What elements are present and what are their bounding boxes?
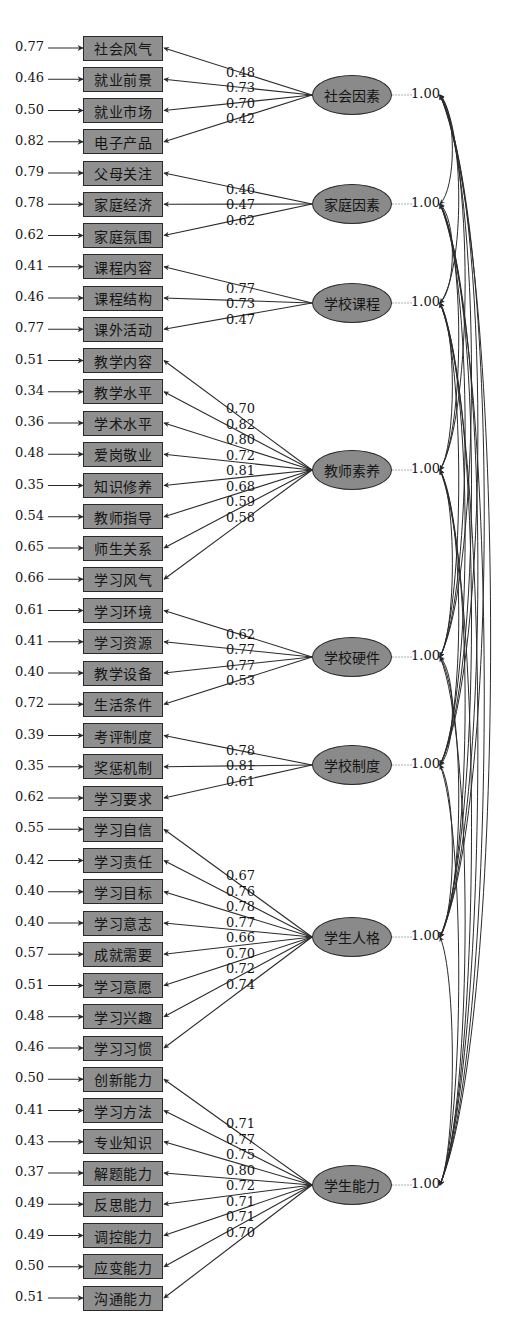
factor-loading-label: 0.77 bbox=[226, 282, 255, 295]
path-diagram-canvas bbox=[0, 0, 523, 1333]
error-variance-label: 0.72 bbox=[8, 695, 44, 710]
factor-loading-label: 0.72 bbox=[226, 449, 255, 462]
factor-loading-label: 0.70 bbox=[226, 1226, 255, 1239]
factor-loading-label: 0.73 bbox=[226, 81, 255, 94]
factor-loading-label: 0.47 bbox=[226, 198, 255, 211]
error-variance-label: 0.55 bbox=[8, 820, 44, 835]
error-variance-label: 0.62 bbox=[8, 227, 44, 242]
factor-loading-label: 0.71 bbox=[226, 1117, 255, 1130]
error-variance-label: 0.36 bbox=[8, 414, 44, 429]
factor-loading-label: 0.77 bbox=[226, 1133, 255, 1146]
latent-factor-ellipse: 学校课程 bbox=[312, 283, 392, 323]
error-variance-label: 0.34 bbox=[8, 383, 44, 398]
factor-loading-label: 0.59 bbox=[226, 495, 255, 508]
factor-loading-label: 0.66 bbox=[226, 931, 255, 944]
observed-variable-box: 教学水平 bbox=[83, 379, 163, 404]
factor-variance-label: 1.00 bbox=[411, 756, 440, 771]
error-variance-label: 0.50 bbox=[8, 1070, 44, 1085]
observed-variable-box: 学习环境 bbox=[83, 598, 163, 623]
observed-variable-box: 沟通能力 bbox=[83, 1286, 163, 1311]
observed-variable-box: 知识修养 bbox=[83, 473, 163, 498]
latent-factor-ellipse: 教师素养 bbox=[312, 450, 392, 490]
error-variance-label: 0.40 bbox=[8, 914, 44, 929]
error-variance-label: 0.42 bbox=[8, 852, 44, 867]
factor-variance-label: 1.00 bbox=[411, 86, 440, 101]
error-variance-label: 0.49 bbox=[8, 1195, 44, 1210]
factor-loading-label: 0.78 bbox=[226, 900, 255, 913]
factor-loading-label: 0.80 bbox=[226, 1164, 255, 1177]
error-variance-label: 0.35 bbox=[8, 758, 44, 773]
observed-variable-box: 学习兴趣 bbox=[83, 1004, 163, 1029]
observed-variable-box: 学习资源 bbox=[83, 629, 163, 654]
factor-variance-label: 1.00 bbox=[411, 648, 440, 663]
error-variance-label: 0.62 bbox=[8, 789, 44, 804]
error-variance-label: 0.50 bbox=[8, 1258, 44, 1273]
observed-variable-box: 家庭经济 bbox=[83, 192, 163, 217]
observed-variable-box: 家庭氛围 bbox=[83, 223, 163, 248]
latent-factor-ellipse: 家庭因素 bbox=[312, 184, 392, 224]
factor-loading-label: 0.73 bbox=[226, 297, 255, 310]
observed-variable-box: 父母关注 bbox=[83, 161, 163, 186]
error-variance-label: 0.41 bbox=[8, 1102, 44, 1117]
factor-loading-label: 0.61 bbox=[226, 775, 255, 788]
factor-loading-label: 0.82 bbox=[226, 418, 255, 431]
error-variance-label: 0.54 bbox=[8, 508, 44, 523]
error-variance-label: 0.65 bbox=[8, 539, 44, 554]
observed-variable-box: 学习目标 bbox=[83, 879, 163, 904]
error-variance-label: 0.40 bbox=[8, 883, 44, 898]
error-variance-label: 0.61 bbox=[8, 602, 44, 617]
observed-variable-box: 学习意志 bbox=[83, 911, 163, 936]
error-variance-label: 0.49 bbox=[8, 1227, 44, 1242]
error-variance-label: 0.39 bbox=[8, 727, 44, 742]
error-variance-label: 0.40 bbox=[8, 664, 44, 679]
observed-variable-box: 爱岗敬业 bbox=[83, 442, 163, 467]
error-variance-label: 0.46 bbox=[8, 70, 44, 85]
error-variance-label: 0.48 bbox=[8, 445, 44, 460]
factor-loading-label: 0.67 bbox=[226, 869, 255, 882]
factor-loading-label: 0.53 bbox=[226, 674, 255, 687]
error-variance-label: 0.41 bbox=[8, 258, 44, 273]
factor-loading-label: 0.74 bbox=[226, 978, 255, 991]
error-variance-label: 0.50 bbox=[8, 102, 44, 117]
latent-factor-ellipse: 学生能力 bbox=[312, 1165, 392, 1205]
factor-loading-label: 0.77 bbox=[226, 916, 255, 929]
error-variance-label: 0.78 bbox=[8, 195, 44, 210]
observed-variable-box: 成就需要 bbox=[83, 942, 163, 967]
latent-factor-ellipse: 学生人格 bbox=[312, 917, 392, 957]
observed-variable-box: 学习风气 bbox=[83, 567, 163, 592]
factor-loading-label: 0.70 bbox=[226, 402, 255, 415]
factor-loading-label: 0.42 bbox=[226, 112, 255, 125]
error-variance-label: 0.57 bbox=[8, 945, 44, 960]
error-variance-label: 0.82 bbox=[8, 133, 44, 148]
observed-variable-box: 调控能力 bbox=[83, 1223, 163, 1248]
observed-variable-box: 师生关系 bbox=[83, 536, 163, 561]
observed-variable-box: 创新能力 bbox=[83, 1067, 163, 1092]
factor-loading-label: 0.77 bbox=[226, 643, 255, 656]
factor-loading-label: 0.77 bbox=[226, 659, 255, 672]
factor-loading-label: 0.47 bbox=[226, 313, 255, 326]
factor-loading-label: 0.62 bbox=[226, 628, 255, 641]
error-variance-label: 0.79 bbox=[8, 164, 44, 179]
factor-variance-label: 1.00 bbox=[411, 195, 440, 210]
error-variance-label: 0.43 bbox=[8, 1133, 44, 1148]
factor-loading-label: 0.70 bbox=[226, 97, 255, 110]
factor-loading-label: 0.78 bbox=[226, 744, 255, 757]
error-variance-label: 0.77 bbox=[8, 320, 44, 335]
observed-variable-box: 学习要求 bbox=[83, 786, 163, 811]
observed-variable-box: 学习自信 bbox=[83, 817, 163, 842]
observed-variable-box: 解题能力 bbox=[83, 1161, 163, 1186]
observed-variable-box: 课程结构 bbox=[83, 286, 163, 311]
error-arrows bbox=[48, 48, 83, 1298]
observed-variable-box: 学习方法 bbox=[83, 1098, 163, 1123]
factor-loading-label: 0.70 bbox=[226, 947, 255, 960]
error-variance-label: 0.41 bbox=[8, 633, 44, 648]
latent-factor-ellipse: 社会因素 bbox=[312, 75, 392, 115]
factor-loading-label: 0.75 bbox=[226, 1148, 255, 1161]
observed-variable-box: 学习意愿 bbox=[83, 973, 163, 998]
observed-variable-box: 奖惩机制 bbox=[83, 754, 163, 779]
observed-variable-box: 专业知识 bbox=[83, 1129, 163, 1154]
latent-factor-ellipse: 学校制度 bbox=[312, 745, 392, 785]
observed-variable-box: 就业前景 bbox=[83, 67, 163, 92]
latent-factor-ellipse: 学校硬件 bbox=[312, 637, 392, 677]
factor-loading-label: 0.48 bbox=[226, 66, 255, 79]
